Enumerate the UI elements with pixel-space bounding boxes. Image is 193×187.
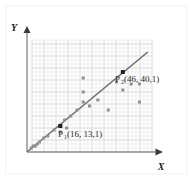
scatter-point [46,135,49,138]
scatter-point [121,89,124,92]
scatter-point [107,109,110,112]
scatter-point [82,101,85,104]
scatter-point [82,91,85,94]
scatter-point [96,99,99,102]
label-p1-value: (16, 13,1) [67,129,102,139]
scatter-plot: Y X P 1 (16, 13,1) P 2 (46, 40,1) [0,0,193,187]
label-p2-base: P [115,74,120,84]
scatter-point [38,141,41,144]
scatter-point [63,119,66,122]
card-edge [6,6,187,174]
scatter-point [138,101,141,104]
figure-card: Y X P 1 (16, 13,1) P 2 (46, 40,1) [0,0,193,187]
x-axis-label: X [157,161,165,172]
scatter-point [76,109,79,112]
scatter-point [69,115,72,118]
scatter-point [42,137,45,140]
label-p2-value: (46, 40,1) [124,74,159,84]
scatter-point [53,129,56,132]
label-p1-base: P [58,129,63,139]
scatter-point [82,77,85,80]
scatter-point [88,105,91,108]
highlighted-point [58,124,62,128]
y-axis-label: Y [11,22,18,33]
